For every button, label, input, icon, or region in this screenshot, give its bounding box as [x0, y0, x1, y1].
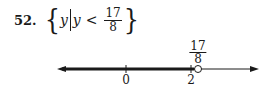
open-circle-icon [195, 66, 202, 73]
left-arrow-icon [57, 66, 66, 72]
tick-label-0: 0 [122, 73, 130, 87]
number-line [0, 0, 269, 87]
tick-label-2: 2 [187, 73, 195, 87]
endpoint-label: 17 8 [189, 40, 206, 65]
endpoint-denominator: 8 [194, 53, 202, 65]
right-arrow-icon [250, 66, 259, 72]
